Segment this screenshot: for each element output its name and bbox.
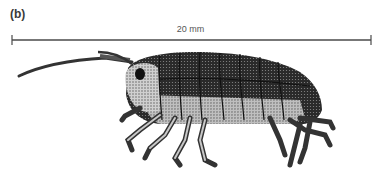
eye <box>135 68 145 80</box>
body <box>125 52 322 124</box>
antenna <box>19 52 132 76</box>
amphipod-illustration <box>0 0 381 179</box>
